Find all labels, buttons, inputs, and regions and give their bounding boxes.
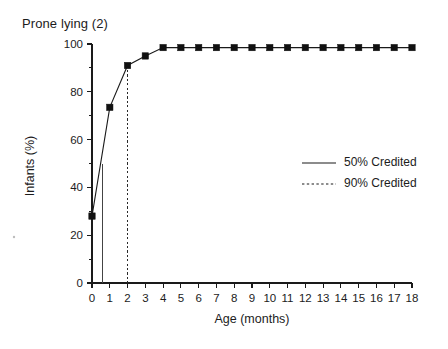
data-marker bbox=[160, 44, 166, 50]
chart-legend: 50% Credited90% Credited bbox=[302, 155, 417, 190]
x-tick-label: 9 bbox=[249, 292, 255, 304]
data-marker bbox=[124, 62, 130, 68]
data-marker bbox=[142, 53, 148, 59]
data-marker bbox=[213, 44, 219, 50]
y-tick-label: 0 bbox=[77, 277, 83, 289]
scan-speck bbox=[13, 236, 15, 238]
data-marker bbox=[302, 44, 308, 50]
legend-label-1: 50% Credited bbox=[344, 155, 417, 169]
plot-area: 020406080100 012345678910111213141516171… bbox=[0, 0, 448, 349]
x-tick-label: 12 bbox=[299, 292, 312, 304]
data-marker bbox=[107, 104, 113, 110]
x-tick-label: 5 bbox=[178, 292, 184, 304]
data-series bbox=[92, 48, 412, 216]
data-marker bbox=[231, 44, 237, 50]
x-tick-label: 8 bbox=[231, 292, 237, 304]
data-marker bbox=[355, 44, 361, 50]
y-tick-labels: 020406080100 bbox=[64, 38, 83, 289]
x-tick-label: 18 bbox=[406, 292, 419, 304]
y-tick-label: 80 bbox=[70, 86, 83, 98]
data-markers bbox=[89, 44, 415, 219]
x-tick-labels: 0123456789101112131415161718 bbox=[89, 292, 419, 304]
x-tick-label: 0 bbox=[89, 292, 95, 304]
legend-label-2: 90% Credited bbox=[344, 176, 417, 190]
series-line-0 bbox=[92, 48, 412, 216]
x-tick-label: 10 bbox=[263, 292, 276, 304]
x-tick-label: 16 bbox=[370, 292, 383, 304]
x-tick-label: 13 bbox=[317, 292, 330, 304]
x-tick-label: 11 bbox=[282, 292, 294, 304]
data-marker bbox=[89, 213, 95, 219]
data-marker bbox=[373, 44, 379, 50]
chart-figure: Prone lying (2) 020406080100 01234567891… bbox=[0, 0, 448, 349]
data-marker bbox=[195, 44, 201, 50]
data-marker bbox=[284, 44, 290, 50]
data-marker bbox=[338, 44, 344, 50]
x-tick-label: 6 bbox=[195, 292, 201, 304]
y-tick-label: 100 bbox=[64, 38, 83, 50]
x-tick-label: 7 bbox=[213, 292, 219, 304]
data-marker bbox=[391, 44, 397, 50]
y-tick-label: 60 bbox=[70, 134, 83, 146]
x-tick-label: 4 bbox=[160, 292, 167, 304]
y-tick-label: 40 bbox=[70, 181, 83, 193]
data-marker bbox=[178, 44, 184, 50]
x-tick-label: 2 bbox=[124, 292, 130, 304]
y-tick-marks bbox=[87, 44, 92, 283]
x-axis-title: Age (months) bbox=[214, 312, 289, 326]
data-marker bbox=[267, 44, 273, 50]
x-tick-label: 17 bbox=[388, 292, 401, 304]
data-marker bbox=[320, 44, 326, 50]
data-marker bbox=[249, 44, 255, 50]
x-tick-label: 1 bbox=[107, 292, 113, 304]
x-tick-label: 15 bbox=[352, 292, 365, 304]
data-marker bbox=[409, 44, 415, 50]
reference-lines bbox=[103, 66, 128, 283]
y-axis-title: Infants (%) bbox=[23, 136, 37, 196]
y-tick-label: 20 bbox=[70, 229, 83, 241]
x-tick-marks bbox=[92, 283, 412, 288]
x-tick-label: 3 bbox=[142, 292, 148, 304]
x-tick-label: 14 bbox=[334, 292, 347, 304]
